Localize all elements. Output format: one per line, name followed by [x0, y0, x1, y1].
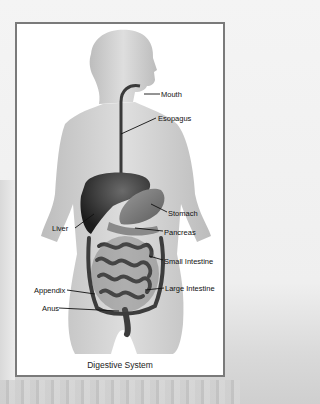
diagram-frame: Mouth Esopagus Stomach Liver Pancreas Sm… [15, 22, 225, 377]
label-small-intestine: Small Intestine [164, 257, 213, 266]
label-esophagus: Esopagus [158, 114, 191, 123]
background-left-shade [0, 180, 15, 380]
intestines-shading [91, 236, 159, 312]
label-pancreas: Pancreas [164, 228, 196, 237]
human-body-illustration [17, 24, 225, 377]
label-stomach: Stomach [168, 209, 198, 218]
label-large-intestine: Large Intestine [165, 284, 215, 293]
diagram-caption: Digestive System [17, 360, 223, 370]
background-bottom-texture [0, 380, 240, 404]
label-mouth: Mouth [161, 90, 182, 99]
label-appendix: Appendix [34, 286, 65, 295]
label-anus: Anus [42, 304, 59, 313]
label-liver: Liver [52, 224, 68, 233]
